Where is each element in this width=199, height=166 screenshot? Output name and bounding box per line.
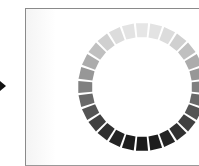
ring-segment bbox=[189, 93, 199, 107]
ring-segment bbox=[79, 93, 95, 107]
ring-segment bbox=[79, 67, 95, 81]
ring-segment bbox=[192, 81, 199, 93]
ring-segment bbox=[136, 23, 148, 37]
ring-segment bbox=[189, 67, 199, 81]
grayscale-color-ring bbox=[0, 0, 199, 166]
ring-segment bbox=[122, 24, 136, 40]
ring-segment bbox=[78, 81, 92, 93]
ring-segment bbox=[136, 137, 148, 151]
ring-segment bbox=[122, 134, 136, 150]
ring-segment bbox=[148, 24, 162, 40]
ring-segment bbox=[148, 134, 162, 150]
